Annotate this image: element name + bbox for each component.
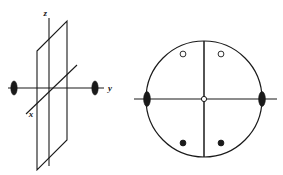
center-open-pole: [201, 96, 206, 101]
filled-pole-lower-left: [180, 140, 186, 146]
diagram-canvas: z y x: [0, 0, 283, 175]
filled-pole-lower-right: [218, 140, 224, 146]
two-fold-axis-marker-right: [92, 81, 98, 95]
open-pole-upper-left: [180, 51, 186, 57]
z-axis-label: z: [42, 8, 47, 18]
two-fold-axis-marker-east: [259, 92, 266, 107]
two-fold-axis-marker-left: [11, 81, 17, 95]
figure-root: z y x: [0, 0, 283, 175]
open-pole-upper-right: [218, 51, 224, 57]
x-axis-label: x: [28, 109, 34, 119]
two-fold-axis-marker-west: [144, 92, 151, 107]
